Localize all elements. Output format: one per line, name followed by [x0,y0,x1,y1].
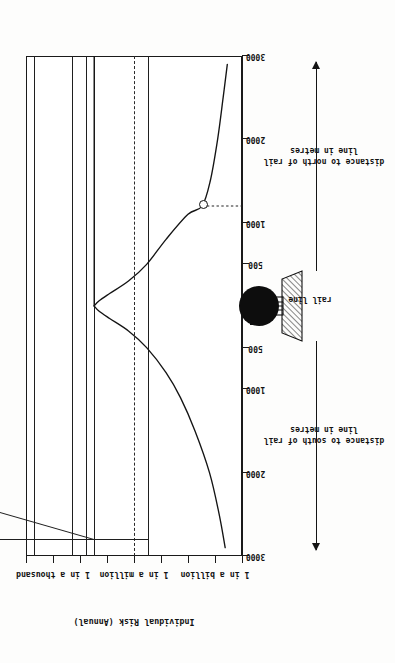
risk-distance-figure: SmokingMotor Vehicle AccidentsFallsPoiso… [12,22,382,642]
figure-page: SmokingMotor Vehicle AccidentsFallsPoiso… [0,0,395,663]
south-axis-label-line2: line in metres [264,424,384,435]
north-axis-label-line2: line in metres [264,145,384,156]
south-direction-arrow [316,341,317,550]
south-axis-label: distance to south of rail line in metres [264,424,384,446]
north-direction-arrow [316,62,317,271]
south-axis-label-line1: distance to south of rail [264,435,384,446]
north-axis-label: distance to north of rail line in metres [264,145,384,167]
storage-sphere-icon [244,263,306,349]
rail-line-label: rail line [288,295,331,304]
north-arrow-head [312,61,320,69]
risk-curve-south [94,306,225,548]
y-axis-title: Individual Risk (Annual) [73,617,194,627]
rotated-figure-wrapper: SmokingMotor Vehicle AccidentsFallsPoiso… [12,22,382,642]
south-arrow-head [312,543,320,551]
risk-curves [12,22,382,642]
risk-curve-north [94,64,227,306]
north-axis-label-line1: distance to north of rail [264,156,384,167]
